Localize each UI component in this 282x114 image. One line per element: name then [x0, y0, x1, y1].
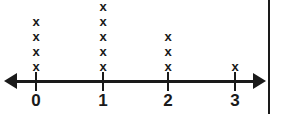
tick-column-2: xxx 2 — [148, 0, 188, 114]
data-mark: x — [32, 14, 39, 29]
tick-mark-3 — [234, 72, 236, 91]
tick-label-2: 2 — [148, 91, 188, 111]
mark-stack-1: xxxxx — [83, 0, 123, 74]
mark-stack-0: xxxx — [16, 14, 56, 74]
tick-column-3: x 3 — [215, 0, 255, 114]
tick-mark-0 — [35, 72, 37, 91]
line-plot-figure: xxxx 0 xxxxx 1 xxx 2 x 3 — [0, 0, 282, 114]
data-mark: x — [164, 44, 171, 59]
tick-column-1: xxxxx 1 — [83, 0, 123, 114]
tick-label-0: 0 — [16, 91, 56, 111]
tick-column-0: xxxx 0 — [16, 0, 56, 114]
data-mark: x — [99, 44, 106, 59]
tick-mark-2 — [167, 72, 169, 91]
tick-label-3: 3 — [215, 91, 255, 111]
mark-stack-2: xxx — [148, 29, 188, 74]
data-mark: x — [99, 14, 106, 29]
data-mark: x — [164, 29, 171, 44]
tick-mark-1 — [102, 72, 104, 91]
data-mark: x — [32, 29, 39, 44]
data-mark: x — [32, 44, 39, 59]
data-mark: x — [99, 29, 106, 44]
data-mark: x — [99, 0, 106, 14]
tick-label-1: 1 — [83, 91, 123, 111]
right-edge-divider — [268, 0, 270, 114]
